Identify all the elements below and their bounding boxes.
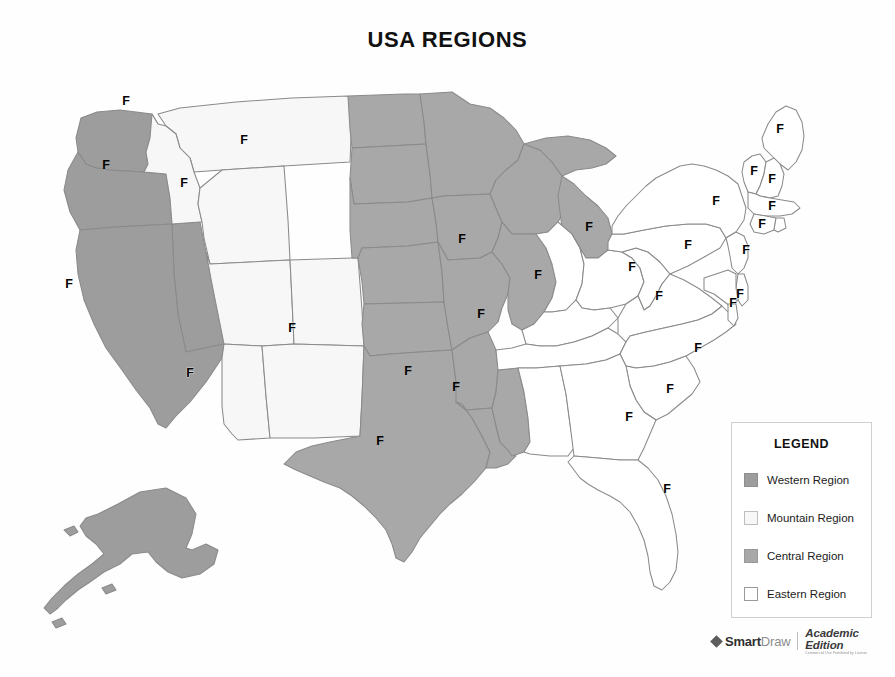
label-NC: F [694, 341, 702, 355]
legend-label-mountain: Mountain Region [767, 512, 854, 525]
label-CO: F [288, 321, 296, 335]
label-NH: F [768, 172, 776, 186]
label-TX: F [376, 434, 384, 448]
legend-item-mountain[interactable]: Mountain Region [744, 503, 871, 533]
label-FL: F [663, 482, 671, 496]
label-MD: F [729, 296, 737, 310]
state-SD[interactable] [350, 144, 432, 204]
state-AK[interactable] [44, 488, 218, 614]
state-FL[interactable] [568, 456, 678, 590]
state-ND[interactable] [348, 94, 426, 148]
watermark-edition-block: Academic Edition Commercial Use Prohibit… [805, 627, 884, 656]
label-WV: F [655, 289, 663, 303]
label-IA: F [458, 232, 466, 246]
legend-label-eastern: Eastern Region [767, 588, 846, 601]
edition-sublabel: Commercial Use Prohibited by License [805, 651, 884, 656]
legend-box: LEGEND Western Region Mountain Region Ce… [731, 422, 872, 618]
swatch-eastern-icon [744, 587, 758, 601]
state-CO[interactable] [290, 258, 364, 346]
edition-label: Academic Edition [805, 627, 884, 651]
label-NY: F [712, 194, 720, 208]
legend-item-eastern[interactable]: Eastern Region [744, 579, 871, 609]
state-AK-isl2 [52, 618, 66, 628]
label-AZ: F [186, 366, 194, 380]
legend-title: LEGEND [732, 437, 871, 451]
state-AK-isl3 [102, 584, 116, 594]
swatch-mountain-icon [744, 511, 758, 525]
swatch-central-icon [744, 549, 758, 563]
state-WA[interactable] [76, 110, 158, 172]
map-page: USA REGIONS [0, 0, 895, 677]
label-MO: F [477, 307, 485, 321]
state-RI[interactable] [774, 218, 786, 232]
legend-item-western[interactable]: Western Region [744, 465, 871, 495]
label-ID: F [180, 176, 188, 190]
legend-label-western: Western Region [767, 474, 849, 487]
label-MT: F [240, 133, 248, 147]
label-GA: F [625, 410, 633, 424]
legend-item-central[interactable]: Central Region [744, 541, 871, 571]
label-OH: F [628, 260, 636, 274]
label-VT: F [750, 164, 758, 178]
state-NM[interactable] [262, 344, 364, 438]
page-title: USA REGIONS [0, 27, 895, 53]
state-OK[interactable] [362, 302, 452, 356]
state-KS[interactable] [358, 242, 444, 304]
state-AK-isl1 [64, 526, 78, 536]
label-OK: F [404, 364, 412, 378]
legend-items: Western Region Mountain Region Central R… [732, 465, 871, 609]
label-IL: F [534, 268, 542, 282]
watermark-divider [797, 632, 798, 650]
label-SC: F [666, 382, 674, 396]
label-OR: F [102, 158, 110, 172]
label-AR: F [452, 380, 460, 394]
brand-draw: Draw [761, 634, 791, 649]
states-layer [44, 92, 804, 632]
smartdraw-watermark: Smart Draw Academic Edition Commercial U… [712, 628, 884, 654]
label-PA: F [684, 238, 692, 252]
label-CA: F [65, 277, 73, 291]
label-ME: F [776, 122, 784, 136]
brand-smart: Smart [725, 634, 761, 649]
label-WA: F [122, 94, 130, 108]
label-NJ: F [742, 243, 750, 257]
swatch-western-icon [744, 473, 758, 487]
diamond-icon [710, 635, 723, 648]
label-MA: F [768, 199, 776, 213]
state-WY[interactable] [198, 166, 290, 264]
label-MI: F [585, 220, 593, 234]
legend-label-central: Central Region [767, 550, 844, 563]
label-CT: F [758, 217, 766, 231]
label-DE: F [736, 287, 744, 301]
